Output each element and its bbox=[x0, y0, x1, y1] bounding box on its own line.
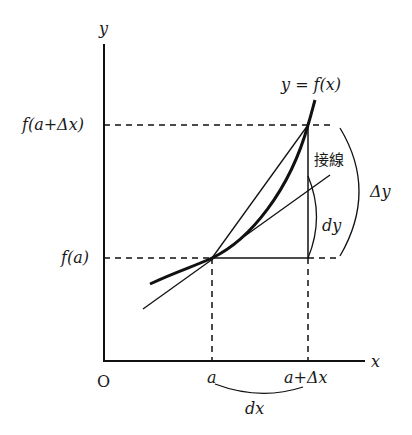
function-curve bbox=[150, 100, 315, 284]
derivative-diagram: y x O y = f(x) 接線 f(a+Δx) f(a) a a+Δx dx… bbox=[0, 0, 412, 435]
x-tick-a-dx: a+Δx bbox=[284, 368, 328, 387]
x-tick-a: a bbox=[207, 368, 217, 387]
dy-label: dy bbox=[322, 216, 342, 235]
x-axis-label: x bbox=[371, 352, 380, 371]
secant-line bbox=[212, 125, 308, 258]
delta-y-brace bbox=[340, 128, 359, 256]
delta-y-label: Δy bbox=[369, 182, 392, 201]
y-tick-f-a-dx: f(a+Δx) bbox=[21, 115, 84, 134]
origin-label: O bbox=[97, 372, 110, 391]
dx-label: dx bbox=[245, 399, 264, 418]
y-tick-f-a: f(a) bbox=[60, 248, 89, 267]
tangent-label: 接線 bbox=[314, 151, 344, 169]
y-axis-label: y bbox=[98, 19, 109, 38]
curve-label: y = f(x) bbox=[280, 75, 341, 94]
dy-brace bbox=[308, 176, 317, 258]
